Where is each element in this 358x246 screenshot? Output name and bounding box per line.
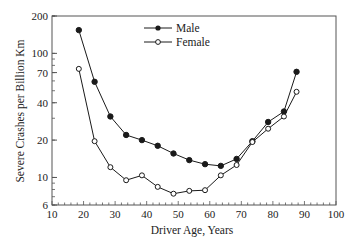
y-axis-label: Severe Crashes per Billion Km — [14, 39, 27, 182]
x-tick-label: 20 — [78, 208, 90, 220]
data-point — [171, 151, 176, 156]
series-line — [79, 69, 297, 194]
x-tick-label: 50 — [173, 208, 185, 220]
data-point — [187, 188, 192, 193]
x-tick-label: 60 — [204, 208, 216, 220]
legend-male-marker-icon — [155, 25, 160, 30]
y-tick-label: 70 — [37, 67, 49, 79]
legend-female-label: Female — [176, 36, 210, 48]
data-point — [155, 143, 160, 148]
data-point — [218, 173, 223, 178]
data-point — [187, 157, 192, 162]
data-point — [266, 126, 271, 131]
data-point — [202, 161, 207, 166]
x-tick-label: 10 — [47, 208, 59, 220]
data-point — [294, 69, 299, 74]
data-point — [234, 163, 239, 168]
legend-male-label: Male — [176, 22, 200, 34]
data-point — [294, 89, 299, 94]
y-tick-label: 40 — [37, 97, 49, 109]
data-point — [234, 156, 239, 161]
series-female — [76, 66, 299, 196]
data-point — [139, 137, 144, 142]
data-series — [76, 27, 299, 196]
x-axis-label: Driver Age, Years — [151, 224, 234, 237]
data-point — [108, 114, 113, 119]
data-point — [265, 119, 270, 124]
x-tick-label: 40 — [141, 208, 153, 220]
x-tick-label: 100 — [328, 208, 345, 220]
data-point — [92, 79, 97, 84]
data-point — [281, 114, 286, 119]
x-tick-label: 30 — [110, 208, 122, 220]
data-point — [124, 178, 129, 183]
x-axis-ticks: 102030405060708090100 — [47, 201, 345, 220]
data-point — [203, 188, 208, 193]
data-point — [123, 132, 128, 137]
y-tick-label: 100 — [32, 47, 49, 59]
data-point — [76, 27, 81, 32]
data-point — [92, 139, 97, 144]
data-point — [108, 165, 113, 170]
y-axis-ticks: 610204070100200 — [32, 10, 58, 211]
series-line — [79, 30, 297, 166]
x-tick-label: 80 — [267, 208, 279, 220]
data-point — [139, 173, 144, 178]
data-point — [76, 66, 81, 71]
y-tick-label: 20 — [37, 134, 49, 146]
legend-female-marker-icon — [156, 40, 161, 45]
data-point — [250, 140, 255, 145]
y-tick-label: 10 — [37, 171, 49, 183]
crash-rate-chart: 610204070100200 102030405060708090100 Ma… — [0, 0, 358, 246]
y-tick-label: 200 — [32, 10, 49, 22]
series-male — [76, 27, 299, 168]
data-point — [171, 191, 176, 196]
legend: Male Female — [144, 22, 210, 48]
x-tick-label: 70 — [236, 208, 248, 220]
data-point — [218, 163, 223, 168]
data-point — [155, 184, 160, 189]
x-tick-label: 90 — [299, 208, 311, 220]
